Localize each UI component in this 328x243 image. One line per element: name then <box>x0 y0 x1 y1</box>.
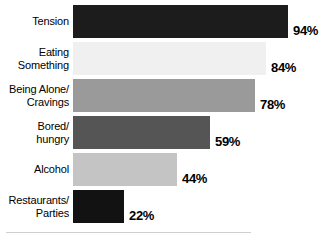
chart-row: Eating Something 84% <box>0 42 328 75</box>
category-label-line: Parties <box>36 207 69 220</box>
category-label-line: Alcohol <box>34 163 69 176</box>
category-label-line: hungry <box>36 133 69 146</box>
category-label: Tension <box>0 5 69 38</box>
bar-being-alone-cravings <box>73 79 255 112</box>
category-label-line: Bored/ <box>37 120 69 133</box>
chart-row: Bored/ hungry 59% <box>0 116 328 149</box>
bar-eating-something <box>73 42 266 75</box>
chart-plot-area: Tension 94% Eating Something 84% Being A… <box>0 0 328 222</box>
category-label-line: Cravings <box>27 96 69 109</box>
chart-row: Tension 94% <box>0 5 328 38</box>
category-label: Alcohol <box>0 153 69 186</box>
category-label-line: Tension <box>32 15 69 28</box>
bar-tension <box>73 5 288 38</box>
bar-value-restaurants-parties: 22% <box>129 209 154 222</box>
bar-value-tension: 94% <box>293 24 318 37</box>
chart-row: Being Alone/ Cravings 78% <box>0 79 328 112</box>
bar-value-bored-hungry: 59% <box>215 135 240 148</box>
category-label: Bored/ hungry <box>0 116 69 149</box>
category-label-line: Eating <box>39 46 69 59</box>
bar-value-eating-something: 84% <box>271 61 296 74</box>
category-label-line: Something <box>18 59 69 72</box>
bar-value-alcohol: 44% <box>182 172 207 185</box>
bar-restaurants-parties <box>73 190 124 223</box>
category-label: Restaurants/ Parties <box>0 190 69 223</box>
bar-value-being-alone-cravings: 78% <box>260 98 285 111</box>
chart-row: Restaurants/ Parties 22% <box>0 190 328 223</box>
bar-bored-hungry <box>73 116 210 149</box>
bar-alcohol <box>73 153 177 186</box>
category-label-line: Restaurants/ <box>8 194 69 207</box>
footer-divider <box>6 232 251 233</box>
chart-row: Alcohol 44% <box>0 153 328 186</box>
bar-chart: Tension 94% Eating Something 84% Being A… <box>0 0 328 243</box>
category-label: Being Alone/ Cravings <box>0 79 69 112</box>
category-label: Eating Something <box>0 42 69 75</box>
category-label-line: Being Alone/ <box>9 83 69 96</box>
